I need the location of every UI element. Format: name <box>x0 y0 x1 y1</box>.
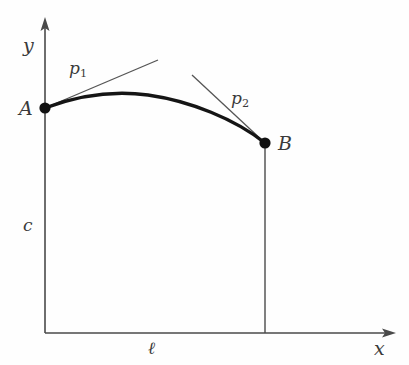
y-axis-label: y <box>23 36 34 55</box>
tangent-label-p1-main: p <box>69 58 80 78</box>
x-axis-label: x <box>374 339 385 358</box>
point-marker-b <box>259 137 270 148</box>
height-label-c: c <box>23 217 33 234</box>
diagram-vector-layer <box>0 0 409 365</box>
tangent-label-p2-sub: 2 <box>242 97 249 110</box>
point-label-b: B <box>278 134 292 153</box>
point-label-a: A <box>19 99 33 118</box>
y-axis <box>41 17 50 333</box>
span-label-l: ℓ <box>148 340 155 357</box>
x-axis <box>45 329 396 338</box>
tangent-label-p1-sub: 1 <box>80 67 87 80</box>
tangent-label-p2-main: p <box>231 88 242 108</box>
tangent-label-p1: p1 <box>69 60 87 79</box>
figure-canvas: y x A B p1 p2 c ℓ <box>0 0 409 365</box>
tangent-label-p2: p2 <box>231 90 249 109</box>
point-marker-a <box>39 102 50 113</box>
